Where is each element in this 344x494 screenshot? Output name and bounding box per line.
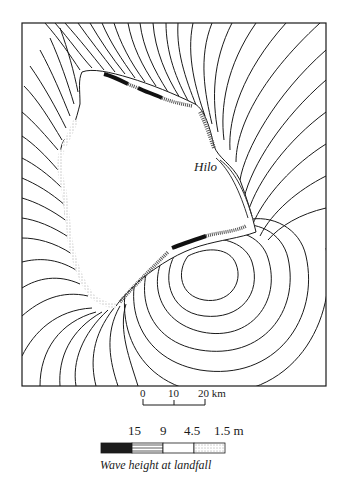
scale-bar: [143, 399, 205, 405]
place-label-hilo: Hilo: [194, 159, 217, 175]
legend-value-15: 15: [128, 423, 141, 439]
legend-swatches: [101, 443, 225, 453]
legend-caption: Wave height at landfall: [100, 458, 211, 473]
legend-swatch-15m: [101, 443, 132, 453]
legend-swatch-1-5m: [194, 443, 225, 453]
legend-swatch-9m: [132, 443, 163, 453]
tsunami-travel-map: [0, 0, 344, 494]
legend-value-9: 9: [160, 423, 167, 439]
scale-tick-10: 10: [168, 387, 179, 399]
legend-swatch-4-5m: [163, 443, 194, 453]
scale-tick-0: 0: [140, 387, 146, 399]
legend-value-4-5: 4.5: [184, 423, 200, 439]
legend-value-1-5m: 1.5 m: [214, 423, 244, 439]
island-landmass: [60, 70, 256, 306]
scale-tick-20km: 20 km: [198, 387, 226, 399]
